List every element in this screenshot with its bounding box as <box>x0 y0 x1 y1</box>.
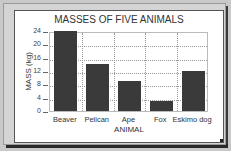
bar-beaver <box>54 31 77 111</box>
y-tick-mark <box>43 99 48 100</box>
y-tick-label: 0 <box>25 107 41 114</box>
y-tick-mark <box>43 112 48 113</box>
y-tick-label: 24 <box>25 27 41 34</box>
plot-area <box>49 32 208 112</box>
bar-eskimo-dog <box>182 71 205 111</box>
chart-title: MASSES OF FIVE ANIMALS <box>15 14 223 25</box>
x-tick-label: Eskimo dog <box>172 115 212 124</box>
y-tick-mark <box>43 72 48 73</box>
y-tick-mark <box>43 32 48 33</box>
bar-fox <box>150 101 173 111</box>
gridline-vertical <box>82 33 83 111</box>
gridline-vertical <box>114 33 115 111</box>
y-tick-label: 8 <box>25 80 41 87</box>
x-axis-label: ANIMAL <box>15 125 223 134</box>
resize-handle[interactable] <box>220 139 223 142</box>
y-tick-mark <box>43 45 48 46</box>
y-tick-label: 16 <box>25 54 41 61</box>
gridline-vertical <box>145 33 146 111</box>
chart-panel: MASSES OF FIVE ANIMALS MASS (kg) 0481216… <box>14 10 224 143</box>
gridline-vertical <box>177 33 178 111</box>
y-tick-label: 4 <box>25 94 41 101</box>
y-tick-label: 12 <box>25 67 41 74</box>
y-tick-mark <box>43 85 48 86</box>
y-tick-label: 20 <box>25 40 41 47</box>
y-tick-mark <box>43 59 48 60</box>
bar-ape <box>118 81 141 111</box>
bar-pelican <box>86 64 109 111</box>
